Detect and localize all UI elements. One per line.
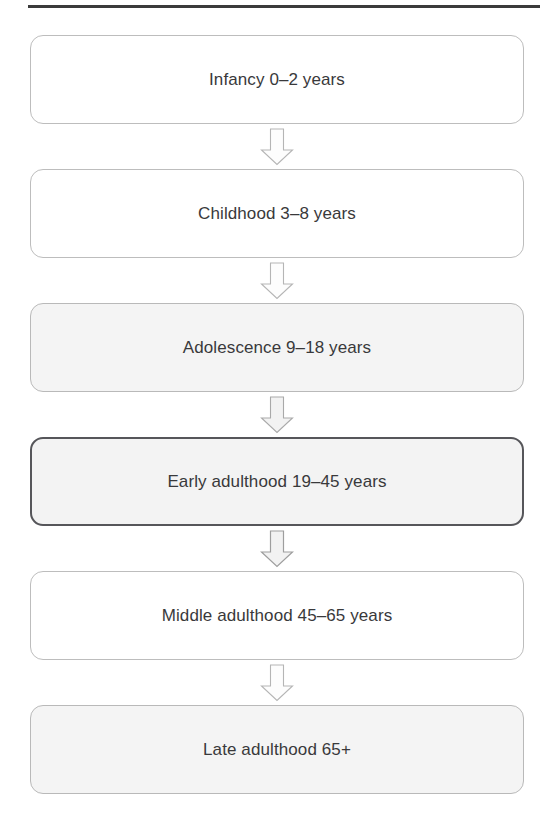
header-rule xyxy=(28,5,540,8)
stage-row-adolescence: Adolescence 9–18 years xyxy=(30,303,524,392)
connector-childhood-to-adolescence xyxy=(30,258,524,303)
stage-label-childhood: Childhood 3–8 years xyxy=(198,203,356,224)
stage-box-adolescence[interactable]: Adolescence 9–18 years xyxy=(30,303,524,392)
stage-label-late-adulthood: Late adulthood 65+ xyxy=(203,739,351,760)
stage-box-early-adulthood[interactable]: Early adulthood 19–45 years xyxy=(30,437,524,526)
connector-early-to-middle-adulthood xyxy=(30,526,524,571)
stage-box-middle-adulthood[interactable]: Middle adulthood 45–65 years xyxy=(30,571,524,660)
down-block-arrow-icon xyxy=(260,396,294,434)
stage-row-childhood: Childhood 3–8 years xyxy=(30,169,524,258)
stage-label-middle-adulthood: Middle adulthood 45–65 years xyxy=(162,605,393,626)
connector-infancy-to-childhood xyxy=(30,124,524,169)
down-block-arrow-icon xyxy=(260,530,294,568)
connector-middle-to-late-adulthood xyxy=(30,660,524,705)
connector-adolescence-to-early-adulthood xyxy=(30,392,524,437)
stage-label-early-adulthood: Early adulthood 19–45 years xyxy=(167,471,386,492)
stage-box-infancy[interactable]: Infancy 0–2 years xyxy=(30,35,524,124)
stage-row-early-adulthood: Early adulthood 19–45 years xyxy=(30,437,524,526)
stage-row-middle-adulthood: Middle adulthood 45–65 years xyxy=(30,571,524,660)
stage-row-late-adulthood: Late adulthood 65+ xyxy=(30,705,524,794)
down-block-arrow-icon xyxy=(260,128,294,166)
down-block-arrow-icon xyxy=(260,664,294,702)
stage-label-adolescence: Adolescence 9–18 years xyxy=(183,337,371,358)
down-block-arrow-icon xyxy=(260,262,294,300)
stage-label-infancy: Infancy 0–2 years xyxy=(209,69,345,90)
stage-flow-column: Infancy 0–2 years Childhood 3–8 years Ad… xyxy=(30,35,524,794)
stage-box-late-adulthood[interactable]: Late adulthood 65+ xyxy=(30,705,524,794)
lifespan-stages-figure: Infancy 0–2 years Childhood 3–8 years Ad… xyxy=(0,0,558,825)
stage-box-childhood[interactable]: Childhood 3–8 years xyxy=(30,169,524,258)
stage-row-infancy: Infancy 0–2 years xyxy=(30,35,524,124)
